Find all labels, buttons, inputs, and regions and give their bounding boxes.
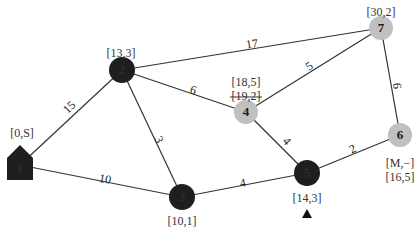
node-id: 7 xyxy=(378,20,385,35)
edge-2-3 xyxy=(122,70,182,197)
node-distance-label: [M,−] xyxy=(386,156,414,170)
current-node-marker-icon xyxy=(302,209,312,218)
node-id: 2 xyxy=(119,62,126,77)
edge-1-2 xyxy=(20,70,122,165)
node-distance-label: [19,2] xyxy=(232,89,261,103)
node-id: 1 xyxy=(17,160,24,175)
edges-layer xyxy=(20,28,400,197)
node-3: 3 xyxy=(169,184,195,210)
node-id: 6 xyxy=(397,127,404,142)
node-id: 3 xyxy=(179,189,186,204)
node-distance-label: [13,3] xyxy=(107,46,136,60)
node-7: 7 xyxy=(369,16,393,40)
node-distance-label: [16,5] xyxy=(386,170,415,184)
node-distance-label: [18,5] xyxy=(232,75,261,89)
node-5: 5 xyxy=(294,160,320,186)
edge-weight: 4 xyxy=(239,175,247,190)
edge-weight: 6 xyxy=(390,82,404,89)
node-4: 4 xyxy=(234,100,258,124)
edge-weight: 10 xyxy=(98,171,112,187)
edge-weight: 4 xyxy=(280,134,294,148)
node-id: 4 xyxy=(243,104,250,119)
edge-7-6 xyxy=(381,28,400,135)
node-id: 5 xyxy=(304,165,311,180)
node-distance-label: [14,3] xyxy=(293,191,322,205)
edge-weight: 2 xyxy=(346,141,358,156)
graph-diagram: 1510361754426 1234567 [0,S][13,3][10,1][… xyxy=(0,0,418,228)
node-distance-label: [0,S] xyxy=(10,126,34,140)
edge-2-4 xyxy=(122,70,246,112)
edge-weight: 3 xyxy=(152,134,167,145)
edge-weight: 17 xyxy=(245,36,259,52)
edge-weight: 5 xyxy=(303,59,316,74)
node-2: 2 xyxy=(109,57,135,83)
node-labels-layer: [0,S][13,3][10,1][18,5][19,2][14,3][M,−]… xyxy=(10,5,414,228)
node-6: 6 xyxy=(388,123,412,147)
node-distance-label: [30,2] xyxy=(367,5,396,19)
node-distance-label: [10,1] xyxy=(168,214,197,228)
node-1: 1 xyxy=(7,145,33,180)
